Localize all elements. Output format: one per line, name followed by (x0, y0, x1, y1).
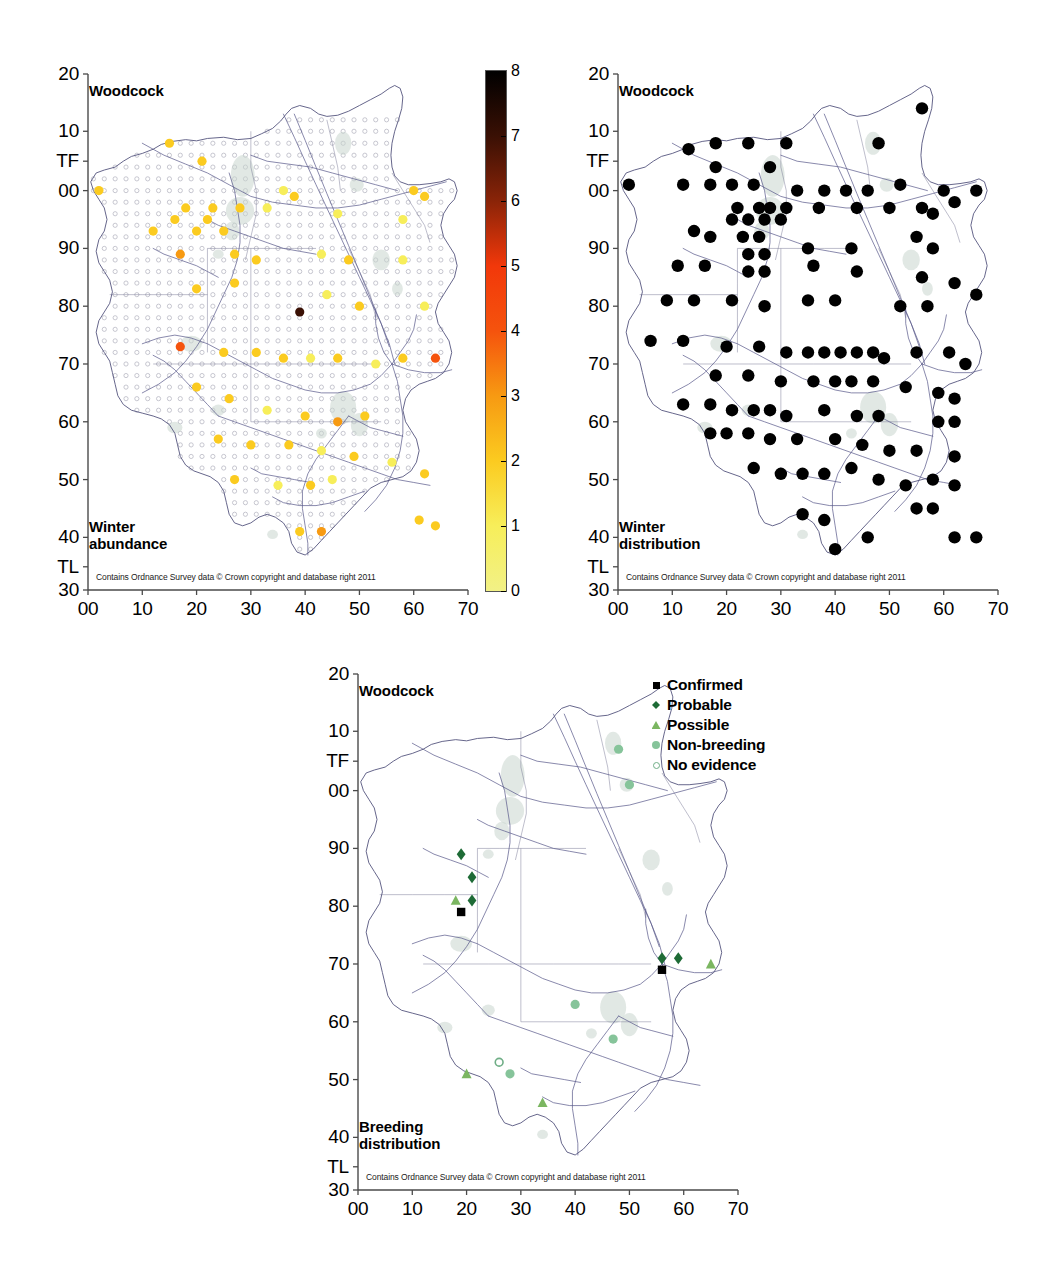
square-marker-icon (648, 682, 664, 689)
winter-distribution-points (623, 102, 983, 555)
y-tick-60: 60 (270, 1011, 349, 1033)
abundance-colorbar: 012345678 (485, 70, 507, 592)
legend-label: Probable (667, 696, 732, 714)
x-tick-50: 50 (879, 598, 900, 620)
colorbar-label-0: 0 (511, 582, 520, 600)
y-tick-00: 00 (530, 180, 609, 202)
y-tick-90: 90 (0, 237, 79, 259)
y-tick-30: 30 (0, 579, 79, 601)
map-canvas-1 (0, 0, 545, 640)
y-tick-TL: TL (0, 556, 79, 578)
legend-item-possible[interactable]: Possible (648, 715, 765, 735)
y-tick-80: 80 (0, 295, 79, 317)
x-tick-40: 40 (825, 598, 846, 620)
panel-winter-distribution: Woodcock Winter distribution Contains Or… (530, 0, 1059, 640)
y-tick-30: 30 (530, 579, 609, 601)
colorbar-tick (501, 396, 506, 397)
y-tick-40: 40 (270, 1126, 349, 1148)
colorbar-tick (501, 136, 506, 137)
x-tick-50: 50 (349, 598, 370, 620)
y-tick-TL: TL (270, 1156, 349, 1178)
y-tick-40: 40 (0, 526, 79, 548)
x-tick-20: 20 (456, 1198, 477, 1220)
x-tick-20: 20 (716, 598, 737, 620)
x-tick-30: 30 (770, 598, 791, 620)
colorbar-label-6: 6 (511, 192, 520, 210)
breeding-legend: ConfirmedProbablePossibleNon-breedingNo … (648, 675, 765, 775)
y-tick-70: 70 (0, 353, 79, 375)
y-tick-20: 20 (0, 63, 79, 85)
map-canvas-2 (530, 0, 1059, 640)
x-tick-70: 70 (458, 598, 479, 620)
x-tick-00: 00 (78, 598, 99, 620)
colorbar-label-2: 2 (511, 452, 520, 470)
panel-winter-abundance: Woodcock Winter abundance Contains Ordna… (0, 0, 545, 640)
x-tick-30: 30 (510, 1198, 531, 1220)
colorbar-tick (501, 526, 506, 527)
legend-item-no-evidence[interactable]: No evidence (648, 755, 765, 775)
legend-item-confirmed[interactable]: Confirmed (648, 675, 765, 695)
y-tick-00: 00 (0, 180, 79, 202)
legend-label: Confirmed (667, 676, 743, 694)
x-tick-70: 70 (988, 598, 1009, 620)
legend-label: No evidence (667, 756, 756, 774)
y-tick-90: 90 (530, 237, 609, 259)
x-tick-10: 10 (662, 598, 683, 620)
y-tick-TF: TF (0, 150, 79, 172)
x-tick-30: 30 (240, 598, 261, 620)
x-tick-00: 00 (348, 1198, 369, 1220)
x-tick-40: 40 (295, 598, 316, 620)
y-tick-70: 70 (530, 353, 609, 375)
legend-label: Non-breeding (667, 736, 765, 754)
y-tick-TL: TL (530, 556, 609, 578)
colorbar-tick (501, 266, 506, 267)
legend-item-probable[interactable]: Probable (648, 695, 765, 715)
colorbar-tick (501, 591, 506, 592)
y-tick-00: 00 (270, 780, 349, 802)
colorbar-label-5: 5 (511, 257, 520, 275)
y-tick-10: 10 (530, 120, 609, 142)
y-tick-10: 10 (0, 120, 79, 142)
x-tick-60: 60 (673, 1198, 694, 1220)
colorbar-label-1: 1 (511, 517, 520, 535)
x-tick-20: 20 (186, 598, 207, 620)
y-tick-60: 60 (0, 411, 79, 433)
legend-label: Possible (667, 716, 729, 734)
legend-item-non-breeding[interactable]: Non-breeding (648, 735, 765, 755)
colorbar-tick (501, 331, 506, 332)
breeding-points (451, 745, 716, 1107)
y-tick-20: 20 (530, 63, 609, 85)
colorbar-label-7: 7 (511, 127, 520, 145)
x-tick-60: 60 (403, 598, 424, 620)
colorbar-tick (501, 201, 506, 202)
y-tick-80: 80 (530, 295, 609, 317)
y-tick-60: 60 (530, 411, 609, 433)
y-tick-50: 50 (0, 469, 79, 491)
circle-marker-icon (648, 741, 664, 749)
x-tick-60: 60 (933, 598, 954, 620)
y-tick-50: 50 (530, 469, 609, 491)
x-tick-50: 50 (619, 1198, 640, 1220)
y-tick-40: 40 (530, 526, 609, 548)
panel-breeding-distribution: Woodcock Breeding distribution Contains … (270, 630, 830, 1269)
x-tick-10: 10 (402, 1198, 423, 1220)
y-tick-90: 90 (270, 837, 349, 859)
colorbar-tick (501, 71, 506, 72)
y-tick-70: 70 (270, 953, 349, 975)
y-tick-10: 10 (270, 720, 349, 742)
colorbar-tick (501, 461, 506, 462)
open-circle-marker-icon (648, 762, 664, 769)
x-tick-00: 00 (608, 598, 629, 620)
y-tick-TF: TF (270, 750, 349, 772)
abundance-grid (91, 118, 453, 552)
x-tick-10: 10 (132, 598, 153, 620)
triangle-marker-icon (648, 721, 664, 729)
y-tick-80: 80 (270, 895, 349, 917)
colorbar-label-8: 8 (511, 62, 520, 80)
y-tick-50: 50 (270, 1069, 349, 1091)
y-tick-30: 30 (270, 1179, 349, 1201)
x-tick-40: 40 (565, 1198, 586, 1220)
x-tick-70: 70 (728, 1198, 749, 1220)
colorbar-label-3: 3 (511, 387, 520, 405)
y-tick-TF: TF (530, 150, 609, 172)
